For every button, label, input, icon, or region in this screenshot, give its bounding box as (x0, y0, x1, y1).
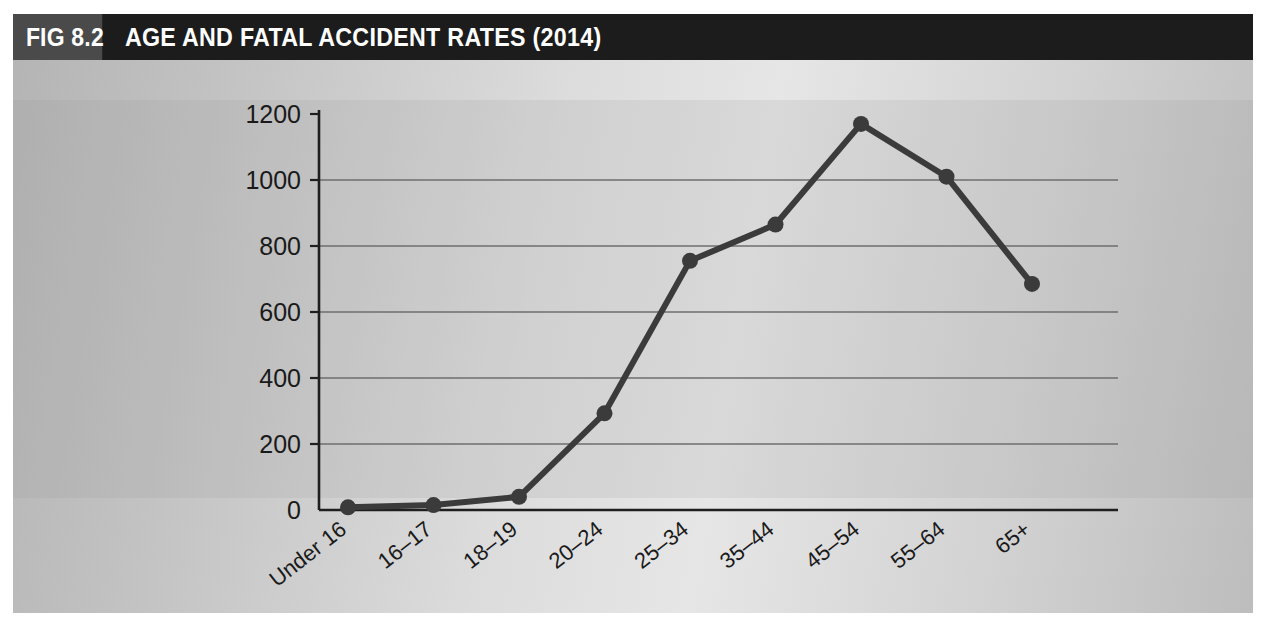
y-axis-tick-label: 1200 (245, 100, 301, 128)
x-axis-tick-label: 45–54 (800, 516, 864, 573)
data-point-marker (853, 116, 869, 132)
x-axis-tick-label: 55–64 (886, 516, 950, 573)
x-axis-tick-label: 20–24 (544, 516, 608, 573)
data-point-marker (682, 253, 698, 269)
figure-panel: FIG 8.2 AGE AND FATAL ACCIDENT RATES (20… (13, 14, 1253, 613)
data-point-marker (511, 489, 527, 505)
data-point-marker (768, 217, 784, 233)
data-point-marker (340, 499, 356, 515)
y-axis-tick-label: 0 (287, 496, 301, 524)
y-axis-tick-label: 400 (259, 364, 301, 392)
y-axis-tick-label: 600 (259, 298, 301, 326)
y-axis-tick-label: 800 (259, 232, 301, 260)
x-axis-tick-label: 65+ (990, 516, 1035, 559)
y-axis-tick-label: 1000 (245, 166, 301, 194)
x-axis-tick-label: 25–34 (629, 516, 693, 573)
x-axis-tick-label: 35–44 (715, 516, 779, 573)
data-point-marker (939, 169, 955, 185)
figure-title: AGE AND FATAL ACCIDENT RATES (2014) (110, 14, 1173, 60)
data-point-marker (597, 405, 613, 421)
x-axis-tick-label: Under 16 (264, 516, 351, 591)
chart-canvas: 020040060080010001200Under 1616–1718–192… (13, 60, 1253, 613)
y-axis-tick-label: 200 (259, 430, 301, 458)
figure-number-badge: FIG 8.2 (13, 14, 102, 60)
figure-header: FIG 8.2 AGE AND FATAL ACCIDENT RATES (20… (13, 14, 1253, 60)
line-chart: 020040060080010001200Under 1616–1718–192… (13, 60, 1253, 613)
data-point-marker (426, 497, 442, 513)
x-axis-tick-label: 18–19 (458, 516, 522, 573)
data-point-marker (1024, 276, 1040, 292)
x-axis-tick-label: 16–17 (373, 516, 437, 573)
data-series-line (348, 124, 1032, 507)
